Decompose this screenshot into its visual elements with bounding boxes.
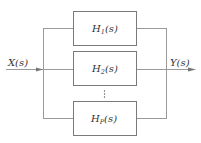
ellipsis-icon [104, 90, 105, 97]
block-hp: HP(s) [74, 102, 137, 136]
block-h1: H1(s) [74, 12, 137, 46]
block-h2: H2(s) [74, 52, 137, 86]
input-label: X(s) [7, 57, 28, 68]
output-label: Y(s) [170, 57, 190, 68]
input-arrow-icon [36, 68, 43, 72]
output-arrow-icon [188, 68, 196, 72]
parallel-block-diagram: H1(s) H2(s) HP(s) X(s) Y(s) [0, 0, 201, 143]
